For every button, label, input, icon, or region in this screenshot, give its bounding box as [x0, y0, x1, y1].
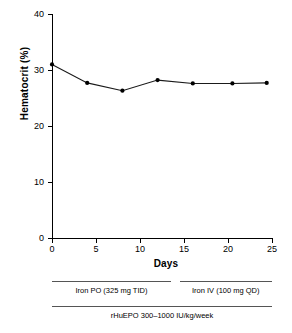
rhuepo-label: rHuEPO 300–1000 IU/kg/week: [52, 311, 272, 320]
data-point: [230, 81, 234, 85]
hematocrit-line-chart: 40 30 20 10 0 0 5 10 15 20 25 Days Hemat…: [0, 0, 292, 333]
data-point: [191, 81, 195, 85]
series-markers: [50, 62, 269, 93]
iron-iv-rule: [180, 281, 272, 282]
data-point: [265, 81, 269, 85]
data-point: [85, 81, 89, 85]
series-layer: [0, 0, 292, 333]
data-point: [50, 62, 54, 66]
data-point: [120, 89, 124, 93]
iron-po-label: Iron PO (325 mg TID): [52, 286, 171, 295]
data-point: [156, 78, 160, 82]
iron-iv-label: Iron IV (100 mg QD): [180, 286, 272, 295]
series-line-hematocrit: [52, 64, 267, 90]
rhuepo-rule: [52, 306, 272, 307]
iron-po-rule: [52, 281, 171, 282]
